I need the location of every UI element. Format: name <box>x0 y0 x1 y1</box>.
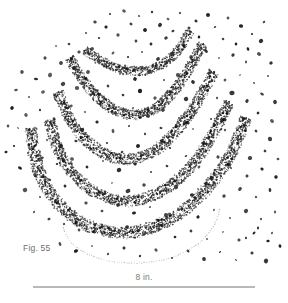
figure-plate: Fig. 55 8 in. <box>0 0 288 303</box>
scale-bar: 8 in. <box>33 272 255 294</box>
scale-bar-label: 8 in. <box>33 272 255 282</box>
excavation-plan-drawing <box>0 0 288 303</box>
figure-caption: Fig. 55 <box>23 243 50 253</box>
scale-bar-rule <box>33 286 255 288</box>
drawing-background <box>0 0 288 303</box>
